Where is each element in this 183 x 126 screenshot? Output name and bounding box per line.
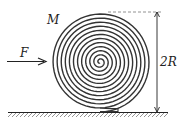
carpet-roll [53, 14, 149, 112]
carpet-roll-diagram: F M 2R [0, 0, 183, 126]
height-label: 2R [159, 55, 177, 69]
ground [8, 113, 168, 118]
height-dimension-arrow [155, 12, 160, 112]
mass-label: M [46, 13, 60, 27]
force-label: F [19, 46, 29, 60]
